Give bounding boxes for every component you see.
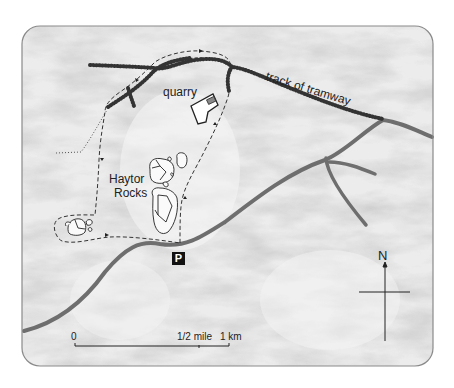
scale-half-mile-label: 1/2 mile (177, 332, 212, 342)
parking-icon: P (172, 252, 185, 265)
haytor-label-line1: Haytor (109, 173, 144, 185)
quarry-label: quarry (163, 86, 197, 98)
haytor-label-line2: Rocks (114, 187, 147, 199)
north-label: N (378, 249, 387, 262)
scale-km-label: 1 km (220, 332, 242, 342)
haytor-map: quarry track of tramway Haytor Rocks P N… (0, 0, 454, 388)
map-canvas (0, 0, 454, 388)
scale-zero-label: 0 (71, 332, 77, 342)
